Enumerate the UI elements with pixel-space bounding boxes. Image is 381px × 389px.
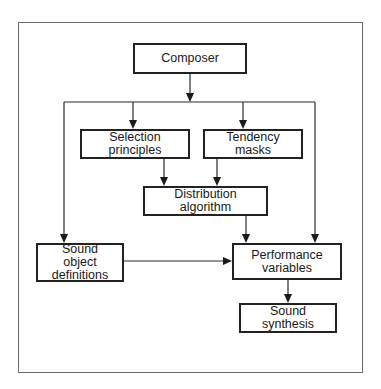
arrowhead-icon — [284, 294, 292, 303]
arrowhead-icon — [213, 177, 221, 186]
arrowhead-icon — [129, 120, 137, 129]
node-label: Performance variables — [251, 249, 323, 275]
node-label: Sound synthesis — [244, 305, 332, 331]
arrowhead-icon — [239, 120, 247, 129]
node-sound-object-definitions: Sound object definitions — [36, 243, 124, 282]
node-sound-synthesis: Sound synthesis — [239, 303, 337, 333]
node-performance-variables: Performance variables — [232, 243, 342, 280]
arrowhead-icon — [223, 257, 232, 265]
node-label: Distribution algorithm — [148, 188, 263, 214]
node-label: Selection principles — [85, 131, 185, 157]
diagram-canvas: Composer Selection principles Tendency m… — [0, 0, 381, 389]
node-selection-principles: Selection principles — [80, 129, 190, 159]
node-label: Composer — [161, 52, 219, 65]
arrowhead-icon — [242, 234, 250, 243]
arrowhead-icon — [160, 177, 168, 186]
node-label: Sound object definitions — [48, 243, 112, 282]
node-composer: Composer — [133, 43, 247, 74]
node-distribution-algorithm: Distribution algorithm — [143, 186, 268, 216]
arrowhead-icon — [186, 93, 194, 102]
arrowhead-icon — [311, 234, 319, 243]
node-label: Tendency masks — [208, 131, 298, 157]
node-tendency-masks: Tendency masks — [203, 129, 303, 159]
